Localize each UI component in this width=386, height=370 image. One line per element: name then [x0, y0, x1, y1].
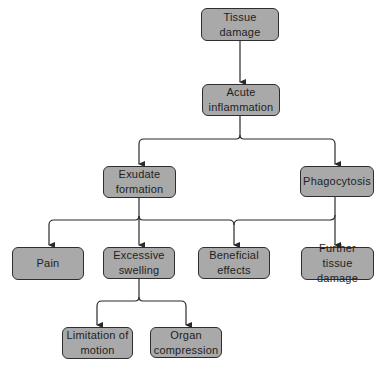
node-limitation-of-motion: Limitation of motion	[62, 327, 133, 359]
node-label: Organ compression	[154, 328, 219, 358]
node-label: Pain	[37, 256, 60, 271]
node-label: Limitation of motion	[67, 328, 129, 358]
node-label: Further tissue damage	[305, 241, 370, 286]
edge-acute-to-phagocytosis	[240, 135, 335, 164]
node-label: Beneficial effects	[209, 248, 259, 278]
node-pain: Pain	[12, 247, 84, 280]
node-exudate-formation: Exudate formation	[103, 166, 176, 198]
edge-exudate-to-pain	[49, 216, 139, 245]
node-further-tissue-damage: Further tissue damage	[301, 247, 374, 280]
edge-phagocytosis-to-beneficial	[234, 215, 335, 225]
node-phagocytosis: Phagocytosis	[300, 166, 374, 197]
node-label: Tissue damage	[220, 10, 261, 40]
node-label: Excessive swelling	[113, 248, 164, 278]
node-acute-inflammation: Acute inflammation	[202, 84, 280, 116]
node-beneficial-effects: Beneficial effects	[198, 247, 270, 279]
node-label: Acute inflammation	[209, 85, 274, 115]
node-label: Phagocytosis	[303, 174, 371, 189]
flowchart-diagram: Tissue damage Acute inflammation Exudate…	[0, 0, 386, 370]
edge-swelling-to-limitation	[97, 297, 139, 325]
edge-swelling-to-organ	[139, 297, 186, 325]
node-excessive-swelling: Excessive swelling	[103, 247, 175, 279]
edge-acute-to-exudate	[139, 139, 236, 164]
node-organ-compression: Organ compression	[150, 327, 222, 358]
node-tissue-damage: Tissue damage	[201, 8, 279, 41]
edge-exudate-to-beneficial	[139, 216, 234, 245]
edge-acute-stem	[236, 116, 240, 139]
node-label: Exudate formation	[116, 167, 164, 197]
